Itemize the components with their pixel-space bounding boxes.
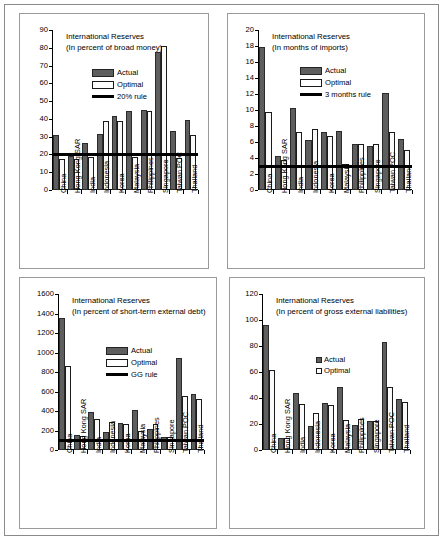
x-axis-tick-label: Korea <box>118 173 125 193</box>
legend-label: GG rule <box>131 371 158 379</box>
x-axis-tick-label: China <box>60 174 67 193</box>
legend-label: Actual <box>325 67 346 75</box>
legend-swatch-actual <box>106 347 128 355</box>
legend-item-optimal: Optimal <box>92 80 147 89</box>
chart-title: International Reserves <box>72 296 150 307</box>
reference-rule-line <box>58 439 204 442</box>
x-axis-tick-label: Singapore <box>373 419 380 453</box>
legend-swatch-optimal <box>300 79 322 87</box>
x-axis-tick-label: Philippines <box>358 157 365 193</box>
bar-group <box>52 30 67 190</box>
x-axis-tick-label: India <box>89 177 96 193</box>
chart-subtitle: (In months of imports) <box>272 43 348 54</box>
legend-label: Optimal <box>324 367 350 375</box>
x-axis-tick-label: India <box>297 177 304 193</box>
chart-panel-broad-money: 0102030405060708090ChinaHong Kong SARInd… <box>19 13 209 269</box>
x-axis-labels: ChinaHong Kong SARIndiaIndonesiaKoreaMal… <box>58 450 204 530</box>
panel-grid: 0102030405060708090ChinaHong Kong SARInd… <box>5 5 440 537</box>
bar-group <box>81 30 96 190</box>
plot-area: 0102030405060708090ChinaHong Kong SARInd… <box>52 30 198 190</box>
x-axis-tick-label: Thailand <box>403 425 410 453</box>
x-axis-tick-label: Indonesia <box>314 421 321 453</box>
legend-swatch-optimal <box>92 81 114 89</box>
x-axis-tick-label: Taiwan POC <box>389 152 396 193</box>
x-axis-tick-label: China <box>66 434 73 453</box>
chart-subtitle: (In percent of short-term external debt) <box>72 307 205 318</box>
legend-item-actual: Actual <box>300 66 371 75</box>
x-axis-tick-label: Philippines <box>147 157 154 193</box>
legend-swatch-rule-line <box>106 373 128 377</box>
legend-swatch-optimal <box>106 359 128 367</box>
chart-legend: ActualOptimal3 months rule <box>300 66 371 102</box>
x-axis-tick-label: Hong Kong SAR <box>80 399 87 453</box>
x-axis-labels: ChinaHong Kong SARIndiaIndonesiaKoreaMal… <box>262 450 410 530</box>
x-axis-tick-label: Taiwan POC <box>388 412 395 453</box>
x-axis-tick-label: Indonesia <box>109 421 116 453</box>
x-axis-tick-label: Thailand <box>191 165 198 193</box>
chart-title: International Reserves <box>66 32 144 43</box>
x-axis-labels: ChinaHong Kong SARIndiaIndonesiaKoreaMal… <box>52 190 198 270</box>
legend-item-rule: 3 months rule <box>300 90 371 99</box>
x-axis-tick-label: Indonesia <box>103 161 110 193</box>
legend-swatch-optimal <box>316 368 322 374</box>
legend-label: Actual <box>131 347 152 355</box>
legend-item-actual: Actual <box>92 68 147 77</box>
legend-label: 3 months rule <box>325 91 371 99</box>
reference-rule-line <box>258 165 412 168</box>
x-axis-tick-label: Hong Kong SAR <box>74 139 81 193</box>
legend-swatch-actual <box>300 67 322 75</box>
bar-group <box>110 30 125 190</box>
legend-item-actual: Actual <box>106 346 158 355</box>
x-axis-tick-label: China <box>270 434 277 453</box>
x-axis-tick-label: Philippines <box>153 417 160 453</box>
x-axis-tick-label: Singapore <box>162 159 169 193</box>
x-axis-tick-label: Korea <box>124 433 131 453</box>
legend-swatch-rule-line <box>300 93 322 97</box>
legend-label: Actual <box>117 69 138 77</box>
bar-group <box>262 294 277 450</box>
legend-item-optimal: Optimal <box>316 367 350 375</box>
chart-panel-gross-external-liabilities: 020406080100120ChinaHong Kong SARIndiaIn… <box>229 277 425 529</box>
figure-outer-frame: 0102030405060708090ChinaHong Kong SARInd… <box>4 4 439 536</box>
legend-swatch-rule-line <box>92 95 114 99</box>
chart-legend: ActualOptimal <box>316 356 350 378</box>
figure-root: 0102030405060708090ChinaHong Kong SARInd… <box>0 0 443 540</box>
chart-panel-short-term-debt: 02004006008001000120014001600ChinaHong K… <box>19 277 217 529</box>
x-axis-tick-label: Korea <box>328 173 335 193</box>
legend-item-rule: 20% rule <box>92 92 147 101</box>
plot-area: 02468101214161820ChinaHong Kong SARIndia… <box>258 30 412 190</box>
x-axis-tick-label: Thailand <box>405 165 412 193</box>
bar-group <box>58 294 73 450</box>
x-axis-tick-label: Taiwan POC <box>176 152 183 193</box>
x-axis-tick-label: Malaysia <box>133 164 140 193</box>
chart-title: International Reserves <box>272 32 350 43</box>
x-axis-tick-label: India <box>299 437 306 453</box>
x-axis-labels: ChinaHong Kong SARIndiaIndonesiaKoreaMal… <box>258 190 412 270</box>
x-axis-tick-label: Singapore <box>168 419 175 453</box>
legend-item-actual: Actual <box>316 356 350 364</box>
x-axis-tick-label: Malaysia <box>343 164 350 193</box>
x-axis-tick-label: Philippines <box>358 417 365 453</box>
chart-title: International Reserves <box>276 296 354 307</box>
x-axis-tick-label: Korea <box>329 433 336 453</box>
legend-swatch-actual <box>316 357 322 363</box>
x-axis-tick-label: Hong Kong SAR <box>284 399 291 453</box>
legend-label: Optimal <box>325 79 351 87</box>
legend-item-optimal: Optimal <box>300 78 371 87</box>
legend-label: Optimal <box>131 359 157 367</box>
x-axis-tick-label: China <box>266 174 273 193</box>
legend-label: Optimal <box>117 81 143 89</box>
chart-subtitle: (In percent of gross external liabilitie… <box>276 307 407 318</box>
legend-item-optimal: Optimal <box>106 358 158 367</box>
chart-subtitle: (In percent of broad money) <box>66 43 162 54</box>
chart-panel-months-imports: 02468101214161820ChinaHong Kong SARIndia… <box>227 13 425 269</box>
legend-swatch-actual <box>92 69 114 77</box>
x-axis-tick-label: Taiwan POC <box>182 412 189 453</box>
chart-legend: ActualOptimalGG rule <box>106 346 158 382</box>
x-axis-tick-label: Malaysia <box>344 424 351 453</box>
legend-label: 20% rule <box>117 93 147 101</box>
chart-legend: ActualOptimal20% rule <box>92 68 147 104</box>
legend-label: Actual <box>324 356 345 364</box>
reference-rule-line <box>52 153 198 156</box>
legend-item-rule: GG rule <box>106 370 158 379</box>
